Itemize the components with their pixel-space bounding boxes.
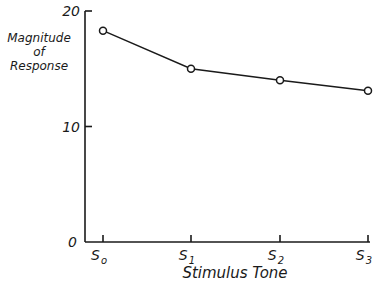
- x-axis-title: Stimulus Tone: [182, 264, 287, 282]
- x-ticks: SoS1S2S3: [91, 235, 372, 266]
- series-line: [103, 31, 368, 91]
- axes: [85, 11, 370, 242]
- data-point-marker: [188, 65, 195, 72]
- x-tick-label: S3: [356, 247, 372, 266]
- data-point-marker: [100, 27, 107, 34]
- data-series: [100, 27, 372, 94]
- y-ticks: 01020: [62, 3, 92, 250]
- y-tick-label: 10: [62, 119, 80, 135]
- line-chart: 01020 SoS1S2S3 Stimulus Tone: [0, 0, 385, 288]
- data-point-marker: [365, 87, 372, 94]
- data-point-marker: [277, 77, 284, 84]
- y-tick-label: 0: [68, 234, 77, 250]
- y-tick-label: 20: [62, 3, 80, 19]
- x-tick-label: So: [91, 247, 107, 266]
